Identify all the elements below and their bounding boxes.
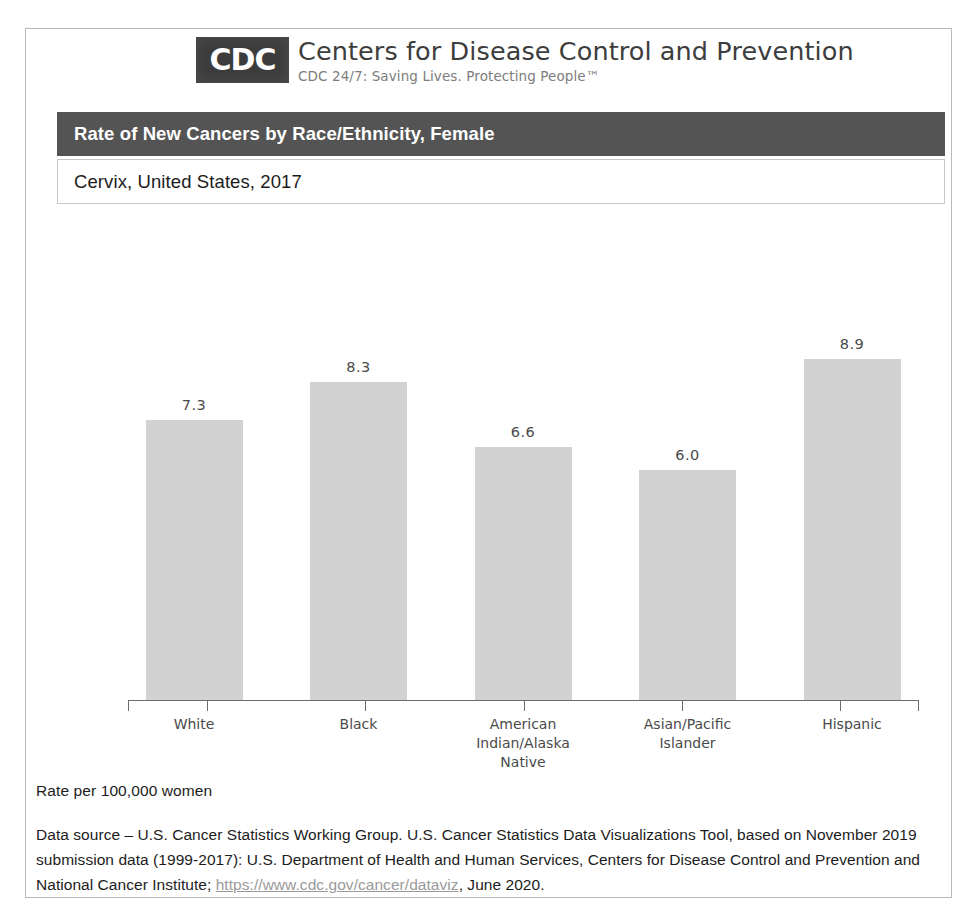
bar[interactable]	[475, 447, 572, 701]
bar[interactable]	[146, 420, 243, 701]
cdc-logo-icon: CDC	[196, 37, 289, 83]
bar-group: 7.38.36.66.08.9	[128, 201, 918, 701]
x-axis-tick-label: AmericanIndian/AlaskaNative	[457, 715, 589, 772]
x-axis	[128, 700, 919, 712]
source-note-suffix: , June 2020.	[459, 876, 545, 893]
x-axis-tick	[524, 700, 525, 711]
cdc-masthead: CDC Centers for Disease Control and Prev…	[196, 35, 854, 99]
x-axis-tick-label: White	[128, 715, 260, 772]
chart-title: Rate of New Cancers by Race/Ethnicity, F…	[74, 123, 495, 145]
bar-value-label: 6.6	[511, 424, 535, 440]
bar-slot: 6.6	[457, 201, 589, 701]
chart-title-banner: Rate of New Cancers by Race/Ethnicity, F…	[57, 112, 945, 156]
x-axis-tick	[207, 700, 208, 711]
bar-slot: 8.9	[786, 201, 918, 701]
data-source-note: Data source – U.S. Cancer Statistics Wor…	[36, 822, 926, 897]
bar[interactable]	[804, 359, 901, 701]
bar-value-label: 6.0	[675, 447, 699, 463]
x-axis-tick-label: Hispanic	[786, 715, 918, 772]
x-axis-tick	[682, 700, 683, 711]
bar[interactable]	[310, 382, 407, 701]
rate-note: Rate per 100,000 women	[36, 782, 212, 800]
organization-name: Centers for Disease Control and Preventi…	[298, 36, 854, 66]
masthead-text-block: Centers for Disease Control and Preventi…	[298, 35, 854, 85]
bar-slot: 7.3	[128, 201, 260, 701]
x-axis-tick	[840, 700, 841, 711]
data-source-link[interactable]: https://www.cdc.gov/cancer/dataviz	[216, 876, 459, 893]
bar-value-label: 8.9	[840, 336, 864, 352]
chart-subtitle: Cervix, United States, 2017	[74, 171, 302, 193]
organization-tagline: CDC 24/7: Saving Lives. Protecting Peopl…	[298, 67, 854, 85]
x-axis-tick-labels: WhiteBlackAmericanIndian/AlaskaNativeAsi…	[128, 715, 918, 772]
chart-subtitle-box: Cervix, United States, 2017	[57, 159, 945, 204]
x-axis-tick	[365, 700, 366, 711]
x-axis-tick	[128, 700, 129, 711]
report-page-frame: CDC Centers for Disease Control and Prev…	[25, 28, 952, 898]
bar-value-label: 8.3	[346, 359, 370, 375]
chart-plot-area: 7.38.36.66.08.9	[128, 201, 918, 701]
bar-slot: 8.3	[293, 201, 425, 701]
cdc-logo-text: CDC	[210, 45, 276, 75]
x-axis-tick-label: Asian/PacificIslander	[622, 715, 754, 772]
bar[interactable]	[639, 470, 736, 701]
x-axis-tick	[918, 700, 919, 711]
x-axis-tick-label: Black	[293, 715, 425, 772]
bar-value-label: 7.3	[182, 397, 206, 413]
bar-slot: 6.0	[622, 201, 754, 701]
